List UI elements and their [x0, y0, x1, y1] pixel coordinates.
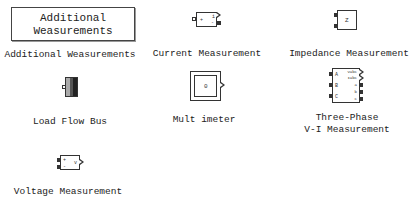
port-label-b-out: b [355, 90, 357, 95]
port-label-a-out: a [355, 83, 357, 88]
minus-port-icon [57, 165, 61, 169]
output-arrow-icon [221, 82, 225, 88]
port-label-vabc: Vabc [347, 70, 357, 75]
additional-measurements-icon[interactable]: Additional Weasurements [11, 7, 135, 41]
port-b-icon [329, 83, 333, 87]
block-label: Impedance Measurement [289, 48, 409, 60]
port-label-c: C [335, 95, 338, 100]
voltage-measurement-icon[interactable]: + - v [60, 155, 80, 170]
block-label: Load Flow Bus [33, 116, 107, 128]
in-sign: + [200, 18, 203, 23]
load-flow-bus-icon[interactable] [65, 77, 78, 97]
port-1-icon [334, 13, 338, 17]
current-measurement-icon[interactable]: + i - [196, 12, 217, 27]
port-b-out-icon [359, 90, 363, 94]
minus-sign: - [63, 165, 66, 170]
port-label-c-out: c [355, 97, 357, 102]
plus-port-icon [57, 158, 61, 162]
port-c-icon [329, 94, 333, 98]
plus-sign: + [63, 158, 66, 163]
port-a-out-icon [359, 83, 363, 87]
multimeter-icon[interactable]: 0 [190, 71, 221, 101]
port-2-icon [334, 24, 338, 28]
port-label-iabc: Iabc [347, 76, 357, 81]
output-port-icon [217, 21, 221, 25]
block-label: Additional Weasurements [4, 49, 135, 61]
block-label: Current Measurement [153, 48, 261, 60]
block-label: Mult imeter [173, 114, 236, 126]
icon-text-line2: Weasurements [12, 25, 134, 38]
multimeter-value: 0 [204, 84, 208, 89]
z-label: Z [345, 18, 349, 23]
block-label: Three-Phase V-I Measurement [304, 112, 390, 136]
bus-port-icon [62, 85, 66, 89]
output-arrow-icon [217, 12, 221, 18]
port-label-a: A [335, 73, 338, 78]
impedance-measurement-icon[interactable]: Z [337, 10, 357, 30]
port-c-out-icon [359, 97, 363, 101]
minus-label: - [211, 21, 214, 26]
port-a-icon [329, 72, 333, 76]
v-label: v [74, 161, 77, 166]
iabc-arrow-icon [360, 75, 364, 81]
block-label: Voltage Measurement [14, 186, 122, 198]
input-port-icon [192, 17, 196, 21]
icon-text-line1: Additional [12, 12, 134, 25]
output-arrow-icon [80, 159, 84, 165]
port-label-b: B [335, 84, 338, 89]
three-phase-vi-icon[interactable]: A B C Vabc Iabc a b c [332, 68, 360, 103]
